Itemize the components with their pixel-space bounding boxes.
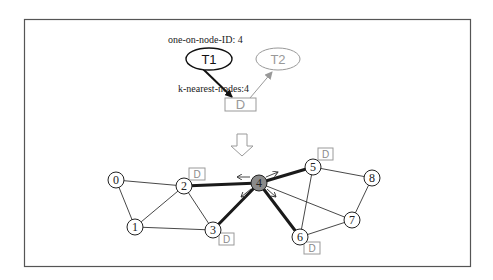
node-5-label: 5 <box>310 160 316 174</box>
task-placement-top: one-on-node-ID: 4 T1 T2 k-nearest-nodes:… <box>168 34 300 112</box>
data-to-t2-arrow <box>250 72 272 98</box>
edge-0-2 <box>116 180 184 186</box>
task-t1-label: T1 <box>201 52 216 67</box>
edge-2-4-thick <box>184 183 259 186</box>
node-0-label: 0 <box>113 173 119 187</box>
edge-1-2 <box>135 186 184 227</box>
edge-5-6 <box>300 167 313 237</box>
data-replica-label: D <box>223 234 230 245</box>
edge-3-4-thick <box>213 183 259 230</box>
edge-1-3 <box>135 227 213 230</box>
node-3-label: 3 <box>210 223 216 237</box>
node-4-label: 4 <box>256 176 262 190</box>
data-replica-label: D <box>193 169 200 180</box>
data-replica-label: D <box>322 149 329 160</box>
node-1-label: 1 <box>132 220 138 234</box>
diagram-canvas: one-on-node-ID: 4 T1 T2 k-nearest-nodes:… <box>0 0 493 280</box>
node-2-label: 2 <box>181 179 187 193</box>
k-nearest-annotation: k-nearest-nodes:4 <box>178 83 249 94</box>
data-box-label: D <box>236 97 245 112</box>
arrow-up-right-icon <box>266 172 278 177</box>
node-7-label: 7 <box>349 213 355 227</box>
node-6-label: 6 <box>297 230 303 244</box>
graph-edges <box>116 167 372 237</box>
task-t2-label: T2 <box>270 52 285 67</box>
node-8-label: 8 <box>369 171 375 185</box>
edge-5-8 <box>313 167 372 178</box>
down-arrow-icon <box>231 134 253 156</box>
data-replica-label: D <box>308 243 315 254</box>
one-on-node-annotation: one-on-node-ID: 4 <box>168 34 243 45</box>
